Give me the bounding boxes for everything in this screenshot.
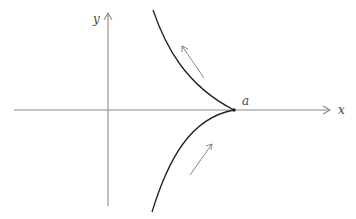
point-label: a [242, 94, 249, 108]
curve-upper-branch [153, 10, 234, 110]
cusp-diagram: x y a [0, 0, 356, 219]
cusp-point [232, 108, 236, 112]
y-axis-label: y [92, 12, 100, 26]
x-axis-label: x [338, 103, 345, 117]
curve-lower-branch [152, 110, 234, 212]
lower-direction-arrow-icon [190, 144, 212, 175]
upper-direction-arrow-icon [182, 46, 204, 78]
x-axis [14, 106, 330, 114]
